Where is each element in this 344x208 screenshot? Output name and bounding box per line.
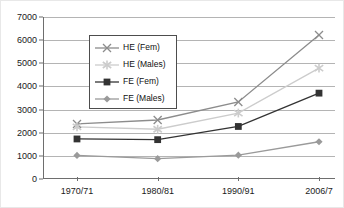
legend-label: FE (Fem) [120,77,159,86]
legend-item: FE (Males) [94,90,172,107]
data-point-square [154,136,161,143]
x-tick-label: 1980/81 [141,187,174,196]
line-chart-figure: 01000200030004000500060007000 HE (Fem)HE… [0,0,344,208]
legend-label: HE (Fem) [120,43,160,52]
data-point-diamond [154,155,161,162]
y-tick-label: 7000 [1,13,37,22]
data-point-square [104,78,111,85]
x-tick-mark [77,177,78,181]
legend-label: FE (Males) [120,94,165,103]
legend-marker-square-icon [94,75,120,89]
legend-item: FE (Fem) [94,73,172,90]
series-layer [43,17,335,179]
y-tick-label: 6000 [1,36,37,45]
data-point-square [74,136,81,143]
data-point-cross-x [315,31,323,39]
data-point-square [316,90,323,97]
legend-item: HE (Fem) [94,39,172,56]
data-point-diamond [315,138,322,145]
data-point-diamond [103,95,110,102]
x-tick-mark [158,177,159,181]
chart-legend: HE (Fem)HE (Males)FE (Fem)FE (Males) [89,35,177,109]
y-tick-label: 1000 [1,151,37,160]
legend-label: HE (Males) [120,60,166,69]
x-tick-label: 1990/91 [222,187,255,196]
series-line [77,142,319,159]
x-tick-mark [319,177,320,181]
x-tick-mark [238,177,239,181]
y-tick-label: 5000 [1,59,37,68]
y-tick-label: 4000 [1,82,37,91]
y-tick-label: 2000 [1,128,37,137]
y-tick-label: 0 [1,175,37,184]
legend-marker-cross-x-icon [94,41,120,55]
data-point-diamond [235,152,242,159]
legend-marker-star-icon [94,58,120,72]
plot-area: HE (Fem)HE (Males)FE (Fem)FE (Males) [43,17,335,179]
data-point-star [315,64,323,73]
x-tick-label: 2006/7 [305,187,333,196]
legend-item: HE (Males) [94,56,172,73]
x-tick-label: 1970/71 [61,187,94,196]
data-point-square [235,123,242,130]
x-axis: 1970/711980/811990/912006/7 [43,181,335,205]
y-tick-label: 3000 [1,105,37,114]
legend-marker-diamond-icon [94,92,120,106]
data-point-diamond [73,152,80,159]
